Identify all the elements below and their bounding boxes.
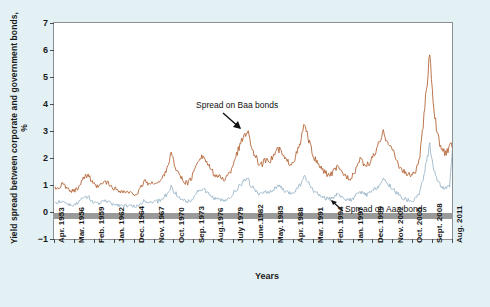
annotation-baa-label: Spread on Baa bonds [196,100,278,110]
x-tick-label: Aug. 2011 [455,206,464,243]
x-axis-title: Years [0,271,490,281]
annotation-baa-arrow-icon [222,112,248,134]
x-tick-label: Mar. 1956 [77,207,86,243]
x-tick-label: Sept. 2008 [435,203,444,243]
x-tick-label: June.1982 [256,204,265,243]
x-tick-label: Nov. 1967 [157,206,166,243]
x-tick-label: Oct. 1970 [177,207,186,243]
x-tick-label: July 1979 [236,207,245,243]
x-tick-label: Aug.1976 [216,207,225,243]
x-axis-ticks: Apr. 1953Mar. 1956Feb. 1959Jan. 1962Dec.… [0,0,490,307]
x-tick-label: Mar. 1991 [316,207,325,243]
chart-figure: Yield spread between corporate and gover… [0,0,490,307]
x-tick-label: Apr. 1953 [57,207,66,243]
x-tick-label: Feb. 1959 [97,207,106,243]
x-tick-label: Jan. 1962 [117,207,126,243]
x-tick-label: Apr. 1988 [296,207,305,243]
annotation-aaa-arrow-icon [330,200,344,212]
x-tick-label: May. 1985 [276,206,285,243]
x-tick-label: Feb. 1994 [336,207,345,243]
x-tick-label: Dec. 1964 [137,206,146,243]
annotation-aaa-label: Spread on Aaa bonds [345,204,427,214]
x-tick-label: Sep. 1973 [197,206,206,243]
